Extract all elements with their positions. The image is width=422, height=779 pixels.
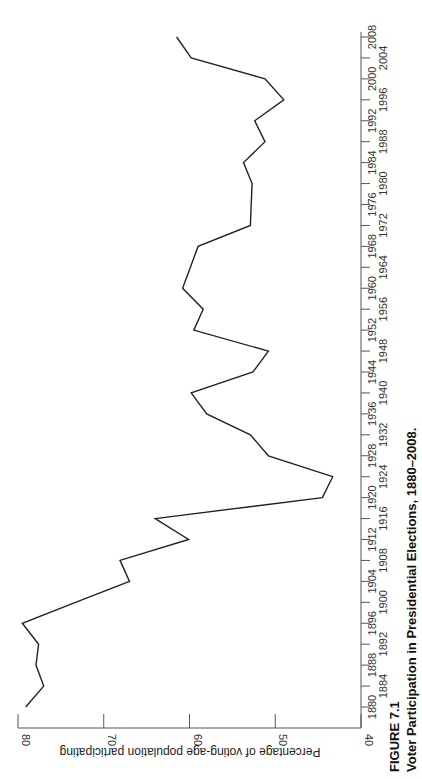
participation-line — [22, 37, 332, 707]
figure-number: FIGURE 7.1 — [387, 701, 402, 772]
year-tick-label: 2008 — [366, 25, 378, 49]
percentage-tick-label: 50 — [277, 734, 289, 746]
percentage-tick-label: 60 — [192, 734, 204, 746]
y-axis-title: Percentage of voting-age population part… — [60, 745, 321, 759]
year-tick-label: 1948 — [377, 339, 389, 363]
year-tick-label: 1900 — [377, 590, 389, 614]
percentage-tick-label: 70 — [106, 734, 118, 746]
year-tick-label: 1924 — [377, 464, 389, 488]
percentage-tick-label: 40 — [363, 734, 375, 746]
percentage-tick-label: 80 — [20, 734, 32, 746]
plot-area — [22, 37, 332, 707]
year-tick-label: 1956 — [377, 297, 389, 321]
year-tick-label: 1940 — [377, 381, 389, 405]
axis-ticks — [18, 32, 370, 728]
year-tick-label: 1980 — [377, 171, 389, 195]
voter-participation-chart: 8070605040188018841888189218961900190419… — [0, 0, 422, 779]
year-tick-label: 1996 — [377, 88, 389, 112]
year-tick-label: 1988 — [377, 129, 389, 153]
year-tick-label: 2004 — [377, 46, 389, 70]
year-tick-label: 1972 — [377, 213, 389, 237]
figure-title: Voter Participation in Presidential Elec… — [404, 428, 419, 772]
year-tick-label: 1908 — [377, 548, 389, 572]
figure-caption: FIGURE 7.1 Voter Participation in Presid… — [387, 428, 419, 772]
year-tick-label: 1884 — [377, 674, 389, 698]
year-tick-label: 1964 — [377, 255, 389, 279]
tick-labels: 8070605040188018841888189218961900190419… — [20, 25, 389, 746]
year-tick-label: 1892 — [377, 632, 389, 656]
year-tick-label: 1932 — [377, 423, 389, 447]
year-tick-label: 1916 — [377, 506, 389, 530]
